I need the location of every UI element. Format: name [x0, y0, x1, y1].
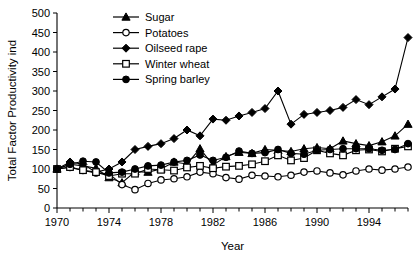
y-tick-label: 150 [32, 144, 50, 156]
y-tick-label: 250 [32, 105, 50, 117]
y-tick-label: 200 [32, 124, 50, 136]
data-point [404, 34, 412, 42]
legend-item-potatoes[interactable]: Potatoes [113, 27, 189, 39]
legend-item-oilseed-rape[interactable]: Oilseed rape [113, 42, 207, 54]
y-axis-title: Total Factor Productivity ind [6, 40, 18, 181]
y-tick-label: 450 [32, 27, 50, 39]
legend-label: Potatoes [145, 27, 189, 39]
x-tick-label: 1982 [201, 216, 225, 228]
data-point [158, 162, 165, 169]
data-point [288, 172, 294, 178]
series-layer [53, 34, 412, 193]
chart-figure: 0501001502002503003504004505001970197419… [0, 0, 418, 259]
data-point [170, 135, 178, 143]
data-point [236, 176, 242, 182]
x-tick-label: 1974 [97, 216, 121, 228]
data-point [327, 170, 333, 176]
data-point [287, 120, 295, 128]
data-point [67, 161, 74, 168]
data-point [197, 169, 203, 175]
data-point [392, 166, 398, 172]
data-point [379, 167, 385, 173]
data-point [352, 96, 360, 104]
chart-legend[interactable]: SugarPotatoesOilseed rapeWinter wheatSpr… [113, 11, 210, 85]
data-point [262, 173, 268, 179]
data-point [184, 174, 190, 180]
data-point [197, 163, 204, 170]
data-point [196, 145, 204, 152]
data-point [145, 162, 152, 169]
data-point [249, 150, 256, 157]
x-tick-label: 1978 [149, 216, 173, 228]
data-point [288, 157, 295, 164]
data-point [132, 186, 138, 192]
data-point [353, 145, 360, 152]
data-point [300, 110, 308, 118]
data-point [197, 152, 204, 159]
legend-marker-filled-diamond [122, 44, 130, 52]
legend-item-sugar[interactable]: Sugar [113, 11, 175, 23]
data-point [405, 164, 411, 170]
data-point [144, 142, 152, 150]
data-point [93, 169, 100, 176]
legend-item-spring-barley[interactable]: Spring barley [113, 73, 210, 85]
data-point [392, 146, 399, 153]
legend-label: Spring barley [145, 73, 210, 85]
legend-marker-open-circle [123, 29, 129, 35]
data-point [223, 163, 230, 170]
legend-label: Sugar [145, 11, 175, 23]
data-point [327, 146, 334, 153]
y-tick-label: 100 [32, 163, 50, 175]
data-point [171, 176, 177, 182]
y-tick-label: 400 [32, 46, 50, 58]
data-point [145, 180, 151, 186]
data-point [313, 108, 321, 116]
data-point [339, 103, 347, 111]
data-point [80, 158, 87, 165]
data-point [366, 166, 372, 172]
data-point [275, 146, 282, 153]
y-tick-label: 500 [32, 7, 50, 19]
data-point [301, 169, 307, 175]
y-tick-label: 300 [32, 85, 50, 97]
data-point [171, 167, 178, 174]
data-point [340, 145, 347, 152]
data-point [93, 159, 100, 166]
data-point [353, 168, 359, 174]
data-point [248, 108, 256, 116]
legend-marker-open-square [123, 61, 130, 68]
y-tick-label: 0 [44, 202, 50, 214]
data-point [340, 172, 346, 178]
x-tick-label: 1990 [305, 216, 329, 228]
data-point [158, 177, 164, 183]
data-point [80, 167, 87, 174]
data-point [223, 174, 229, 180]
legend-label: Winter wheat [145, 58, 209, 70]
data-point [378, 93, 386, 101]
data-point [378, 138, 386, 145]
data-point [275, 174, 281, 180]
data-point [171, 159, 178, 166]
data-point [326, 107, 334, 115]
data-point [262, 149, 269, 156]
data-point [54, 166, 61, 173]
x-tick-label: 1970 [45, 216, 69, 228]
data-point [119, 181, 125, 187]
line-chart: 0501001502002503003504004505001970197419… [0, 0, 418, 259]
data-point [365, 101, 373, 109]
x-tick-label: 1986 [253, 216, 277, 228]
legend-label: Oilseed rape [145, 42, 207, 54]
data-point [157, 140, 165, 148]
data-point [236, 148, 243, 155]
data-point [132, 166, 139, 173]
data-point [314, 147, 321, 154]
data-point [249, 172, 255, 178]
data-point [222, 116, 230, 124]
data-point [379, 147, 386, 154]
legend-item-winter-wheat[interactable]: Winter wheat [113, 58, 209, 70]
y-tick-label: 50 [38, 183, 50, 195]
data-point [288, 150, 295, 157]
legend-marker-filled-circle [123, 76, 130, 83]
data-point [119, 169, 126, 176]
data-point [210, 157, 217, 164]
